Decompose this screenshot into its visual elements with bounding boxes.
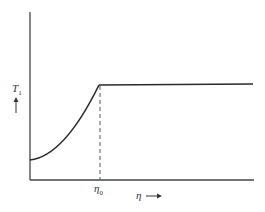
up-arrow-icon [14, 97, 19, 113]
rising-curve [30, 85, 99, 160]
y-axis-label: T1 [12, 82, 22, 97]
x-axis-label: η [136, 189, 141, 201]
right-arrow-icon [146, 194, 162, 199]
eta0-label: η0 [94, 182, 103, 197]
plateau-line [99, 84, 253, 85]
diagram-canvas: T1 η0 η [0, 0, 265, 212]
